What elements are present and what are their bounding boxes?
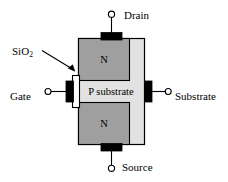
substrate-terminal-node	[165, 89, 171, 95]
gate-contact-pad	[66, 81, 74, 102]
source-terminal-node	[108, 165, 114, 171]
mosfet-cross-section-figure: N N P substrate Drain Source Gate Substr…	[0, 0, 228, 182]
source-contact-pad	[101, 144, 122, 152]
source-label: Source	[122, 162, 153, 173]
gate-terminal-node	[45, 89, 51, 95]
n-region-top-label: N	[100, 54, 108, 65]
drain-contact-pad	[101, 33, 122, 41]
sio2-leader-arrowhead	[68, 65, 75, 71]
drain-label: Drain	[124, 10, 149, 21]
substrate-label: Substrate	[175, 91, 216, 102]
n-region-bottom-label: N	[100, 118, 108, 129]
drain-terminal-node	[108, 11, 114, 17]
sio2-label-subscript: 2	[29, 50, 33, 59]
p-substrate-label: P substrate	[88, 86, 134, 97]
sio2-label-text: SiO	[12, 45, 29, 57]
substrate-contact-pad	[145, 81, 153, 102]
sio2-leader-line	[42, 51, 74, 71]
gate-label: Gate	[10, 91, 31, 102]
sio2-label: SiO2	[12, 46, 33, 58]
